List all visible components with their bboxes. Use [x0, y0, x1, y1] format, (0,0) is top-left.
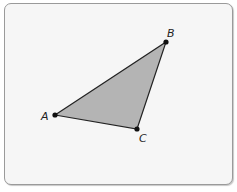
triangle-diagram: ABC: [0, 0, 237, 192]
vertex-c-label: C: [139, 132, 147, 145]
vertex-c-dot: [134, 126, 139, 131]
vertex-a-label: A: [40, 110, 49, 123]
vertex-b-label: B: [167, 27, 175, 40]
vertex-a-dot: [52, 112, 57, 117]
triangle-abc: [55, 42, 166, 129]
vertex-b-dot: [163, 39, 168, 44]
